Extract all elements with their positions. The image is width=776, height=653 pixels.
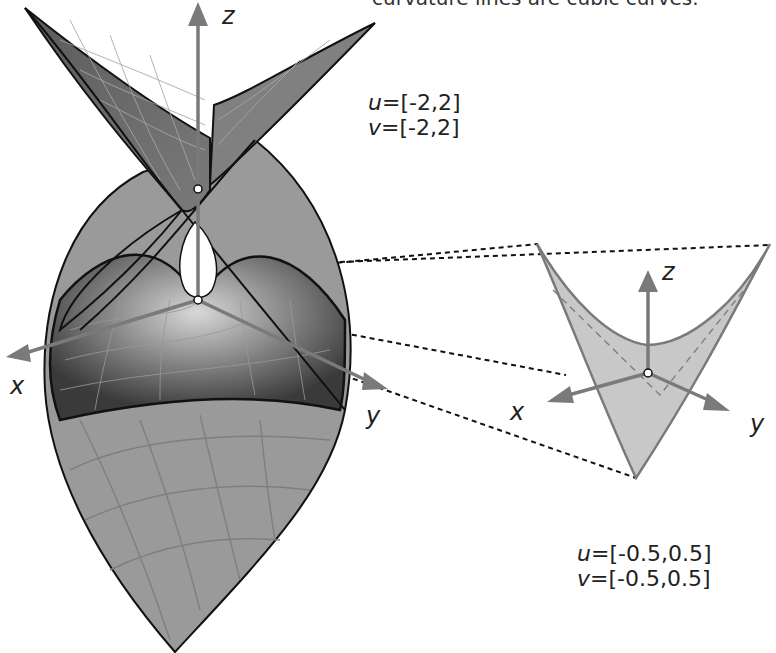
- large-surface: [25, 8, 375, 652]
- detail-param-v: v=[-0.5,0.5]: [577, 566, 711, 591]
- origin-point-large: [194, 296, 202, 304]
- u-range: =[-2,2]: [382, 90, 461, 115]
- v-symbol: v: [577, 566, 590, 591]
- v-range: =[-2,2]: [381, 115, 460, 140]
- x-arrow-head-detail: [547, 386, 574, 403]
- z-axis-label-large: z: [222, 2, 235, 30]
- large-param-v: v=[-2,2]: [368, 115, 460, 140]
- v-symbol: v: [368, 115, 381, 140]
- large-param-u: u=[-2,2]: [368, 90, 460, 115]
- v-range: =[-0.5,0.5]: [590, 566, 711, 591]
- z-arrow-head-large: [188, 2, 208, 26]
- y-arrow-head-detail: [703, 393, 730, 411]
- left-wing: [25, 8, 210, 211]
- z-arrow-head-detail: [638, 270, 658, 292]
- z-axis-label-detail: z: [662, 258, 675, 286]
- x-axis-label-large: x: [10, 372, 24, 400]
- detail-surface: [537, 244, 770, 478]
- x-axis-label-detail: x: [510, 398, 524, 426]
- u-range: =[-0.5,0.5]: [591, 541, 712, 566]
- origin-point-detail: [644, 369, 652, 377]
- y-axis-label-detail: y: [750, 410, 764, 438]
- x-arrow-head-large: [6, 344, 31, 362]
- u-symbol: u: [368, 90, 382, 115]
- y-axis-label-large: y: [366, 402, 380, 430]
- u-symbol: u: [577, 541, 591, 566]
- y-arrow-head-large: [362, 372, 388, 390]
- right-wing: [210, 23, 375, 185]
- detail-param-u: u=[-0.5,0.5]: [577, 541, 711, 566]
- umbilic-point-large: [194, 185, 202, 193]
